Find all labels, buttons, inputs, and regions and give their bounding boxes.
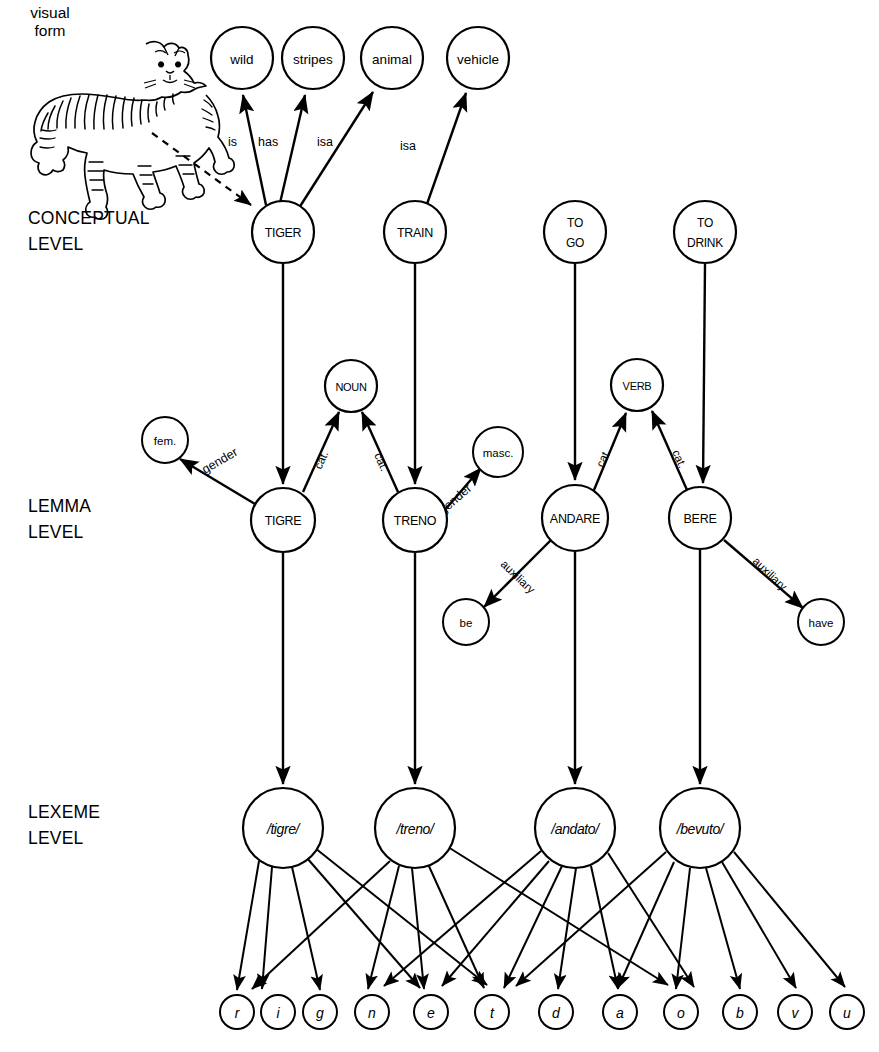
level-title-lexeme-line1: LEXEME <box>28 802 100 822</box>
node-phoneme-d-label: d <box>552 1005 561 1021</box>
node-phoneme-u-label: u <box>843 1005 851 1021</box>
node-fem[interactable]: fem. <box>142 417 188 463</box>
node-be-label: be <box>460 617 473 629</box>
node-phoneme-v-label: v <box>792 1005 800 1021</box>
visual-form-label-line2: form <box>35 22 66 39</box>
edge-label-cat-tigre: cat. <box>312 449 331 471</box>
node-tigre-label: TIGRE <box>265 514 302 528</box>
edge-label-gender-fem: gender <box>200 445 241 477</box>
node-phoneme-e[interactable]: e <box>414 995 448 1029</box>
node-phoneme-e-label: e <box>427 1005 435 1021</box>
node-andare-label: ANDARE <box>550 512 600 526</box>
node-to-drink-label-line1: TO <box>697 216 713 230</box>
node-noun[interactable]: NOUN <box>325 360 377 412</box>
edge-todrink-to-bere <box>703 264 705 483</box>
node-wild-label: wild <box>229 52 253 67</box>
node-vehicle[interactable]: vehicle <box>447 27 509 89</box>
edge-train-isa-vehicle <box>427 93 466 204</box>
node-andato-lexeme-label: /andato/ <box>550 821 601 837</box>
node-phoneme-b[interactable]: b <box>723 995 757 1029</box>
visual-form-label-line1: visual <box>30 4 70 21</box>
edge-label-isa-animal: isa <box>317 135 333 149</box>
node-fem-label: fem. <box>154 435 176 447</box>
edge-label-isa-vehicle: isa <box>400 139 416 153</box>
level-title-conceptual-line2: LEVEL <box>28 234 84 254</box>
node-phoneme-g[interactable]: g <box>303 995 337 1029</box>
node-phoneme-n[interactable]: n <box>355 995 389 1029</box>
node-phoneme-a-label: a <box>616 1005 624 1021</box>
node-train-label: TRAIN <box>397 226 433 240</box>
node-to-drink[interactable]: TO DRINK <box>674 201 736 263</box>
node-phoneme-b-label: b <box>736 1005 744 1021</box>
node-animal[interactable]: animal <box>361 27 423 89</box>
node-tigre-lexeme[interactable]: /tigre/ <box>243 788 323 868</box>
node-andato-lexeme[interactable]: /andato/ <box>535 788 615 868</box>
node-wild[interactable]: wild <box>211 27 273 89</box>
node-bere[interactable]: BERE <box>669 487 731 549</box>
node-to-go-label-line2: GO <box>566 236 584 250</box>
node-phoneme-o[interactable]: o <box>664 995 698 1029</box>
node-bere-label: BERE <box>684 512 717 526</box>
tiger-drawing-icon <box>31 42 234 220</box>
node-andare[interactable]: ANDARE <box>542 485 608 551</box>
node-phoneme-g-label: g <box>316 1005 324 1021</box>
node-tigre[interactable]: TIGRE <box>251 488 315 552</box>
node-stripes-label: stripes <box>293 52 333 67</box>
node-phoneme-a[interactable]: a <box>603 995 637 1029</box>
node-verb-label: VERB <box>623 380 652 392</box>
edge-tiger-is-wild <box>243 95 266 205</box>
level-title-lemma-line1: LEMMA <box>28 496 91 516</box>
node-tiger-label: TIGER <box>265 226 302 240</box>
node-phoneme-i[interactable]: i <box>261 995 295 1029</box>
node-phoneme-o-label: o <box>677 1005 685 1021</box>
node-treno-lexeme[interactable]: /treno/ <box>375 788 455 868</box>
node-treno-label: TRENO <box>394 514 437 528</box>
node-vehicle-label: vehicle <box>457 52 499 67</box>
edge-label-has: has <box>258 135 278 149</box>
node-treno-lexeme-label: /treno/ <box>396 821 436 837</box>
edge-label-is: is <box>228 135 237 149</box>
edge-label-auxiliary-have: auxiliary <box>751 555 790 593</box>
node-bevuto-lexeme-label: /bevuto/ <box>676 821 726 837</box>
node-phoneme-n-label: n <box>368 1005 376 1021</box>
node-phoneme-t[interactable]: t <box>475 995 509 1029</box>
edge-label-auxiliary-be: auxiliary <box>499 558 538 596</box>
edge-label-cat-bere: cat. <box>670 448 689 470</box>
node-to-drink-label-line2: DRINK <box>687 236 723 250</box>
node-stripes[interactable]: stripes <box>282 27 344 89</box>
node-bevuto-lexeme[interactable]: /bevuto/ <box>660 788 740 868</box>
node-phoneme-r[interactable]: r <box>220 995 254 1029</box>
node-train[interactable]: TRAIN <box>384 201 446 263</box>
edge-tiger-has-stripes <box>280 95 305 203</box>
level-title-lemma-line2: LEVEL <box>28 522 84 542</box>
node-to-go[interactable]: TO GO <box>544 201 606 263</box>
node-be[interactable]: be <box>443 599 489 645</box>
level-title-conceptual-line1: CONCEPTUAL <box>28 208 150 228</box>
node-phoneme-u[interactable]: u <box>830 995 864 1029</box>
figure-canvas: is has isa isa gender cat. cat. gender c… <box>0 0 879 1052</box>
node-have[interactable]: have <box>798 599 844 645</box>
node-phoneme-d[interactable]: d <box>539 995 573 1029</box>
node-treno[interactable]: TRENO <box>383 488 447 552</box>
node-animal-label: animal <box>372 52 412 67</box>
node-tiger[interactable]: TIGER <box>252 201 314 263</box>
level-title-lexeme-line2: LEVEL <box>28 828 84 848</box>
node-masc-label: masc. <box>483 447 514 459</box>
node-masc[interactable]: masc. <box>473 427 523 477</box>
lexical-network-diagram: is has isa isa gender cat. cat. gender c… <box>0 0 879 1052</box>
node-verb[interactable]: VERB <box>611 359 663 411</box>
node-noun-label: NOUN <box>335 381 367 393</box>
node-tigre-lexeme-label: /tigre/ <box>266 821 302 837</box>
node-phoneme-v[interactable]: v <box>778 995 812 1029</box>
node-to-go-label-line1: TO <box>567 216 583 230</box>
edge-tiger-isa-animal <box>299 92 373 208</box>
node-have-label: have <box>809 617 834 629</box>
